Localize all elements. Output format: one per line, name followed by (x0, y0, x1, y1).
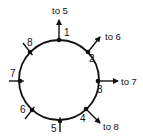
node-4-dot (84, 107, 89, 112)
node-2-label: 2 (89, 53, 95, 64)
node-5-dot (58, 119, 63, 124)
node-5-label: 5 (51, 123, 57, 134)
node-8-label: 8 (27, 37, 33, 48)
node-6-label: 6 (20, 104, 26, 115)
node-6-dot (30, 108, 35, 113)
node-4-label: 4 (80, 113, 86, 124)
node-4-destination-label: to 8 (103, 121, 119, 132)
node-1-destination-label: to 5 (52, 5, 68, 16)
outgoing-link-arrow (88, 37, 100, 52)
node-2-destination-label: to 6 (105, 31, 121, 42)
node-3-destination-label: to 7 (121, 76, 137, 87)
node-1-label: 1 (64, 27, 70, 38)
ring-network-svg: 1to 52to 63to 74to 85678 (0, 0, 143, 140)
ring-network-diagram: 1to 52to 63to 74to 85678 (0, 0, 143, 140)
node-8-dot (28, 50, 33, 55)
node-1-dot (57, 38, 62, 43)
node-3-label: 3 (97, 84, 103, 95)
node-3-dot (96, 79, 101, 84)
node-7-label: 7 (10, 68, 16, 79)
outgoing-link-arrow (86, 109, 100, 123)
node-7-dot (18, 79, 23, 84)
